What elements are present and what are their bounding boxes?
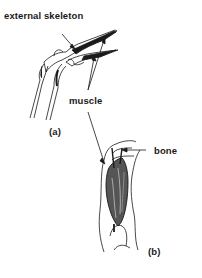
caption-panel-a: (a) <box>49 126 61 137</box>
label-bone: bone <box>154 145 177 156</box>
caption-panel-b: (b) <box>148 246 160 257</box>
vertebrate-limb-drawing <box>88 112 146 252</box>
insect-limb-drawing <box>30 30 118 120</box>
label-external-skeleton: external skeleton <box>4 10 83 21</box>
diagram-canvas <box>0 0 202 278</box>
label-muscle: muscle <box>69 95 102 106</box>
